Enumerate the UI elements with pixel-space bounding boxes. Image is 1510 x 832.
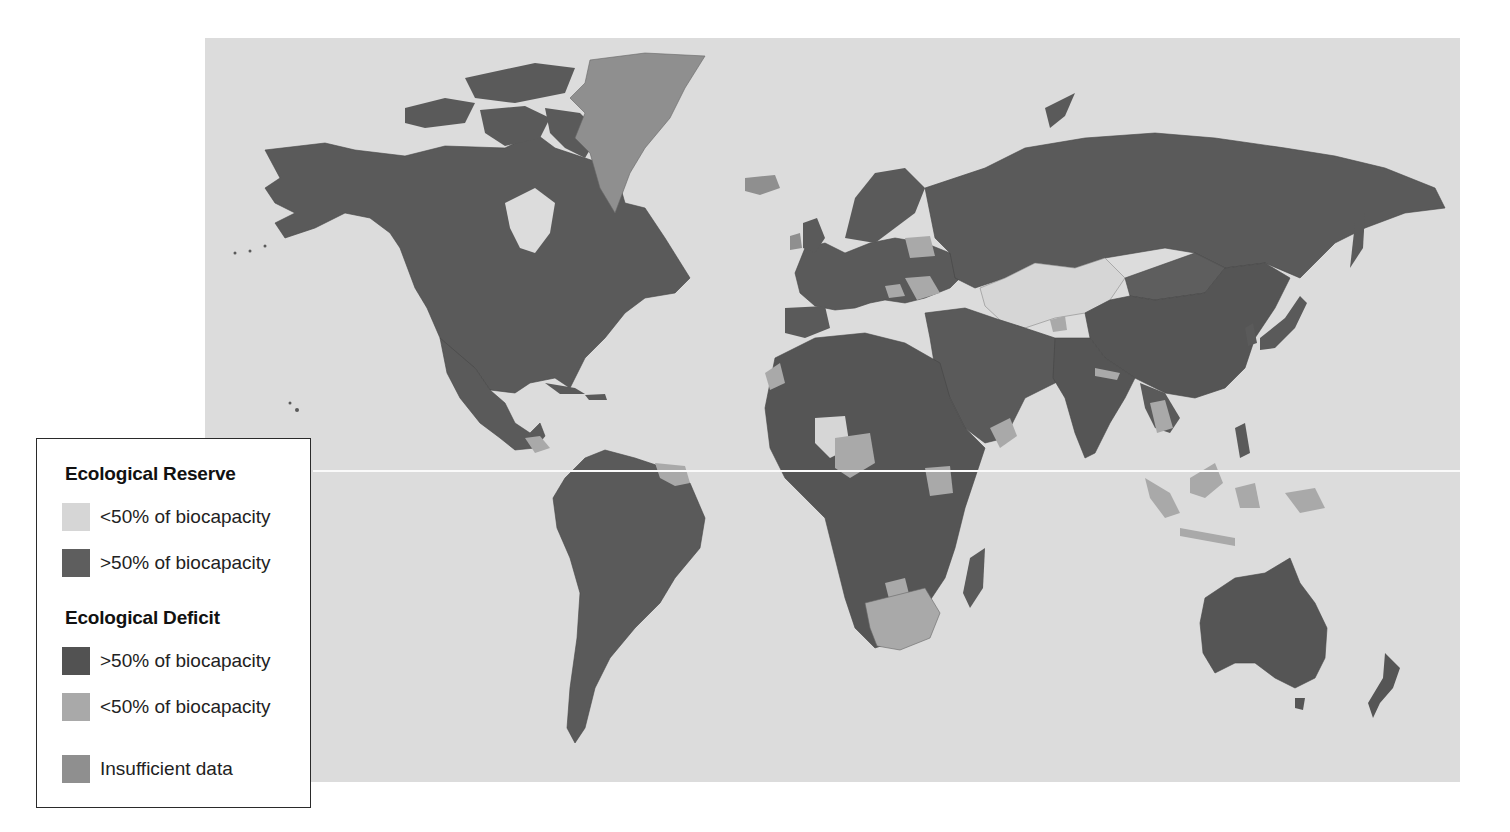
world-map-svg [205, 38, 1460, 782]
region-australia [1200, 558, 1327, 688]
legend-swatch-deficit-high [62, 647, 90, 675]
legend-item-reserve-low: <50% of biocapacity [62, 502, 271, 532]
scan-artifact-line [313, 470, 1460, 472]
legend-heading-reserve: Ecological Reserve [65, 463, 236, 485]
legend-item-insufficient: Insufficient data [62, 754, 233, 784]
region-europe [795, 238, 965, 310]
legend-item-deficit-low: <50% of biocapacity [62, 692, 271, 722]
legend-label-reserve-low: <50% of biocapacity [100, 506, 271, 528]
legend-swatch-reserve-low [62, 503, 90, 531]
legend-label-insufficient: Insufficient data [100, 758, 233, 780]
legend-swatch-deficit-low [62, 693, 90, 721]
legend-heading-deficit: Ecological Deficit [65, 607, 220, 629]
region-south-america [553, 450, 705, 743]
legend-label-deficit-high: >50% of biocapacity [100, 650, 271, 672]
map-legend: Ecological Reserve <50% of biocapacity >… [36, 438, 311, 808]
world-map [205, 38, 1460, 782]
legend-swatch-reserve-high [62, 549, 90, 577]
legend-label-reserve-high: >50% of biocapacity [100, 552, 271, 574]
legend-item-reserve-high: >50% of biocapacity [62, 548, 271, 578]
legend-item-deficit-high: >50% of biocapacity [62, 646, 271, 676]
legend-label-deficit-low: <50% of biocapacity [100, 696, 271, 718]
legend-swatch-insufficient [62, 755, 90, 783]
